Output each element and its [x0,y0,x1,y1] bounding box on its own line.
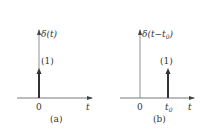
diagram-canvas [0,0,207,131]
panel-b-axis-label: t [188,102,192,112]
panel-a-weight-label: (1) [41,56,54,66]
panel-a-caption: (a) [50,114,62,124]
panel-a-origin-label: 0 [36,102,42,112]
panel-a-axes [17,30,92,98]
panel-a-axis-label: t [86,102,90,112]
panel-b-weight-label: (1) [160,56,173,66]
panel-b-impulse [166,68,171,98]
panel-a-impulse [37,68,42,98]
panel-b-caption: (b) [153,114,166,124]
panel-b-origin-label: 0 [137,102,143,112]
panel-a-function-label: δ(t) [41,29,57,39]
panel-b-shift-label: t0 [165,102,172,115]
panel-b-function-label: δ(t−t0) [142,29,173,42]
